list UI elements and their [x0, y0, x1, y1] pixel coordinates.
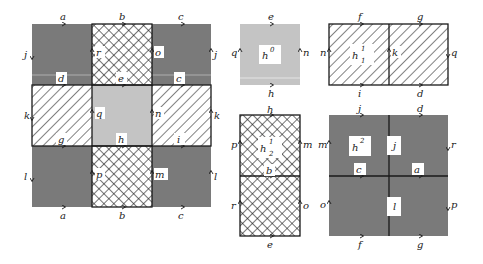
cell-superscript: 1 [269, 138, 273, 146]
edge-label: q [451, 47, 457, 58]
edge-label: i [358, 88, 361, 99]
edge-label: n [320, 47, 326, 58]
edge-label: o [303, 200, 309, 211]
edge-label: r [231, 200, 237, 211]
cell-subscript: 2 [268, 150, 274, 158]
edge-label: p [451, 199, 458, 210]
cell-h1-2: h b e p r m o h 1 2 [231, 104, 312, 250]
edge-label: l [214, 171, 217, 182]
edge-label: c [176, 73, 182, 84]
edge-label: c [178, 11, 184, 22]
edge-label: a [60, 11, 66, 22]
edge-label: o [155, 47, 161, 58]
cell-subscript: 1 [361, 57, 365, 65]
edge-label: d [58, 73, 64, 84]
edge-label: j [212, 49, 217, 60]
edge-label: h [267, 104, 273, 115]
edge-label: e [267, 239, 273, 250]
edge-label: g [58, 134, 64, 145]
cell-dark [32, 146, 92, 207]
cell-h2: j d f g m o r p c a j l h 2 [318, 103, 458, 250]
edge-label: d [417, 103, 423, 114]
edge-label: i [177, 134, 180, 145]
edge-label: n [303, 47, 309, 58]
edge-label: b [119, 210, 125, 221]
edge-label: j [356, 103, 361, 114]
edge-label: o [320, 199, 326, 210]
edge-label: j [22, 49, 27, 60]
edge-label: f [357, 239, 364, 250]
edge-label: c [356, 164, 362, 175]
edge-label: p [231, 139, 238, 150]
edge-label: f [357, 11, 364, 22]
edge-label: a [60, 210, 66, 221]
edge-label: q [231, 47, 237, 58]
cell-superscript: 2 [359, 137, 365, 145]
edge-label: n [155, 108, 161, 119]
edge-label: a [414, 164, 420, 175]
cell-h1-1: f g i d n k q h 1 1 [320, 11, 457, 99]
cell-superscript: 0 [270, 46, 275, 54]
cell-name: h [352, 50, 358, 61]
edge-label: p [96, 169, 103, 180]
edge-label: b [119, 11, 125, 22]
cw-complex-diagram: a b c j r o j d e c k q n k g h i l p m … [0, 0, 483, 264]
edge-label: h [118, 134, 124, 145]
cell-name: h [262, 50, 268, 61]
edge-label: b [266, 165, 272, 176]
edge-label: m [303, 139, 312, 150]
cell-h0: e h q n h 0 [231, 11, 309, 99]
edge-label: h [268, 88, 274, 99]
edge-label: m [318, 139, 327, 150]
cell-name: h [352, 142, 358, 153]
edge-label: k [392, 47, 398, 58]
edge-label: k [24, 110, 30, 121]
edge-label: k [214, 110, 220, 121]
cell-name: h [260, 143, 266, 154]
edge-label: r [451, 139, 457, 150]
edge-label: e [268, 11, 274, 22]
edge-label: g [417, 239, 423, 250]
edge-label: l [393, 201, 396, 212]
edge-label: q [96, 108, 102, 119]
cell-superscript: 1 [361, 45, 365, 53]
edge-label: g [417, 11, 423, 22]
edge-label: l [24, 171, 27, 182]
main-complex: a b c j r o j d e c k q n k g h i l p m … [22, 11, 220, 221]
edge-label: d [417, 88, 423, 99]
edge-label: e [118, 73, 124, 84]
edge-label: m [155, 169, 164, 180]
edge-label: c [178, 210, 184, 221]
